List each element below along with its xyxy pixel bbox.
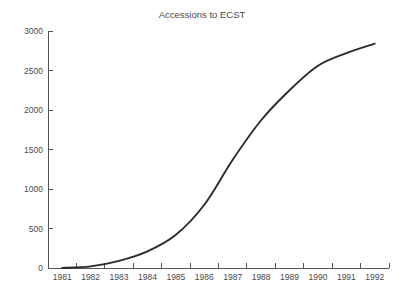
y-tick-label: 2500	[24, 66, 43, 76]
x-tick-label: 1990	[308, 272, 327, 282]
x-tick-label: 1984	[138, 272, 157, 282]
chart-container: Accessions to ECST 050010001500200025003…	[0, 0, 405, 294]
data-series-group	[62, 44, 375, 268]
x-tick-label: 1992	[365, 272, 384, 282]
x-tick-label: 1981	[53, 272, 72, 282]
y-tick-label: 3000	[24, 26, 43, 36]
y-axis: 050010001500200025003000	[24, 26, 53, 273]
x-tick-label: 1989	[280, 272, 299, 282]
y-tick-label: 500	[29, 224, 43, 234]
x-tick-label: 1982	[81, 272, 100, 282]
y-tick-label: 1500	[24, 145, 43, 155]
line-chart: Accessions to ECST 050010001500200025003…	[0, 0, 405, 294]
x-tick-label: 1985	[166, 272, 185, 282]
y-tick-label: 1000	[24, 184, 43, 194]
x-tick-label: 1987	[223, 272, 242, 282]
x-tick-label: 1983	[110, 272, 129, 282]
y-tick-label: 0	[38, 263, 43, 273]
x-tick-label: 1988	[252, 272, 271, 282]
x-tick-label: 1986	[195, 272, 214, 282]
x-tick-label: 1991	[337, 272, 356, 282]
series-line-accessions	[62, 44, 375, 268]
chart-title: Accessions to ECST	[159, 9, 246, 20]
y-tick-label: 2000	[24, 105, 43, 115]
